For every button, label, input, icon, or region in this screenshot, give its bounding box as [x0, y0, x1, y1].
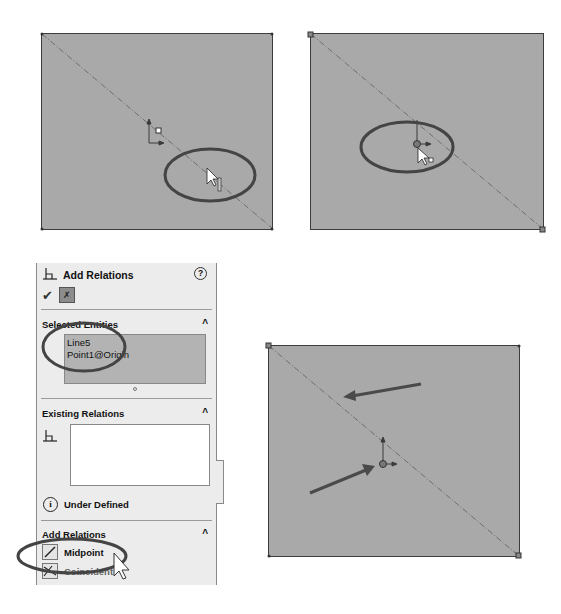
- relation-label: Midpoint: [64, 547, 104, 558]
- selected-entities-title: Selected Entities: [42, 319, 118, 330]
- divider: [41, 309, 212, 310]
- sketch-viewport-step-3[interactable]: [268, 345, 520, 557]
- add-relations-icon: [43, 267, 57, 281]
- panel-resize-tab[interactable]: [216, 460, 224, 504]
- divider: [41, 520, 212, 521]
- list-item[interactable]: Point1@Origin: [67, 349, 203, 361]
- status-text: Under Defined: [64, 499, 129, 510]
- ok-checkmark-icon[interactable]: ✔: [42, 288, 53, 303]
- help-icon[interactable]: ?: [194, 267, 207, 280]
- relations-icon: [43, 429, 57, 443]
- selected-entities-list[interactable]: Line5 Point1@Origin: [64, 334, 206, 384]
- panel-title: Add Relations: [63, 269, 134, 281]
- existing-relations-list[interactable]: [70, 424, 210, 486]
- resize-handle[interactable]: [133, 387, 137, 391]
- add-relations-title: Add Relations: [42, 529, 106, 540]
- collapse-selected-entities-icon[interactable]: ^: [202, 318, 208, 329]
- relation-label: Coincident: [64, 566, 113, 577]
- sketch-viewport-step-1[interactable]: [41, 33, 273, 230]
- relation-midpoint[interactable]: Midpoint: [42, 544, 192, 562]
- midpoint-icon: [42, 544, 58, 560]
- divider: [41, 398, 212, 399]
- existing-relations-title: Existing Relations: [42, 408, 124, 419]
- sketch-viewport-step-2[interactable]: [310, 33, 544, 230]
- info-icon: i: [43, 497, 58, 512]
- keep-visible-pin-button[interactable]: ✗: [59, 287, 75, 303]
- panel-header: Add Relations ?: [37, 263, 216, 285]
- relation-coincident[interactable]: Coincident: [42, 563, 192, 581]
- collapse-add-relations-icon[interactable]: ^: [202, 528, 208, 539]
- list-item[interactable]: Line5: [67, 337, 203, 349]
- add-relations-panel: Add Relations ? ✔ ✗ Selected Entities ^ …: [36, 263, 217, 585]
- collapse-existing-relations-icon[interactable]: ^: [202, 407, 208, 418]
- coincident-icon: [42, 563, 58, 579]
